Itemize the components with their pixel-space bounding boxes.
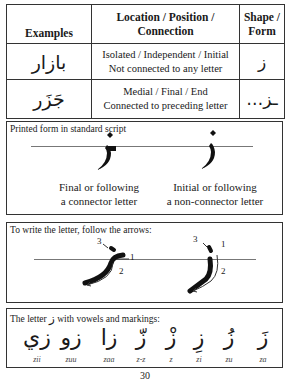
transliteration: zaa — [93, 355, 125, 364]
stroke-label-1: 1 — [221, 239, 226, 249]
transliteration: zu — [213, 355, 245, 364]
printed-form-box: Printed form in standard script Final or… — [6, 121, 283, 215]
example-word: بازار — [7, 44, 92, 80]
box-title: The letter ز with vowels and markings: — [10, 311, 160, 325]
stroke-label-1: 1 — [130, 252, 135, 262]
transliteration: za — [247, 355, 279, 364]
vowel-glyph: زي — [21, 325, 53, 350]
transliteration: z-z — [125, 355, 157, 364]
caption-initial: Initial or following a non-connector let… — [155, 180, 275, 208]
table-row: جَزَر Medial / Final / End Connected to … — [7, 80, 285, 119]
location-cell: Medial / Final / End Connected to preced… — [92, 80, 240, 119]
vowel-glyph: زَ — [247, 325, 279, 350]
header-shape: Shape / Form — [240, 5, 285, 44]
shape-glyph: …ـز — [240, 80, 285, 119]
header-location: Location / Position / Connection — [92, 5, 240, 44]
vowel-glyph: زّ — [125, 325, 157, 350]
example-word: جَزَر — [7, 80, 92, 119]
vowels-box: The letter ز with vowels and markings: ز… — [6, 308, 283, 368]
vowel-glyph: زِ — [183, 325, 215, 350]
stroke-order-box: To write the letter, follow the arrows: … — [6, 222, 283, 303]
location-cell: Isolated / Independent / Initial Not con… — [92, 44, 240, 80]
transliteration: zii — [21, 355, 53, 364]
table-header-row: Examples Location / Position / Connectio… — [7, 5, 285, 44]
letter-zay-isolated-glyph — [193, 128, 233, 172]
table-row: بازار Isolated / Independent / Initial N… — [7, 44, 285, 80]
stroke-label-3: 3 — [193, 234, 198, 244]
box-title: To write the letter, follow the arrows: — [10, 225, 152, 235]
transliteration: zi — [183, 355, 215, 364]
transliteration: zuu — [55, 355, 87, 364]
stroke-diagram-final — [77, 237, 147, 299]
letter-forms-table: Examples Location / Position / Connectio… — [6, 4, 285, 119]
stroke-label-2: 2 — [221, 266, 226, 276]
stroke-label-2: 2 — [119, 266, 124, 276]
vowel-glyph: زا — [93, 325, 125, 350]
letter-zay-final-glyph — [85, 128, 125, 172]
vowel-glyph: زُ — [213, 325, 245, 350]
caption-final: Final or following a connector letter — [39, 180, 159, 208]
stroke-diagram-isolated — [177, 237, 237, 299]
stroke-label-3: 3 — [97, 236, 102, 246]
page-number: 30 — [0, 370, 290, 381]
vowel-glyph: زو — [55, 325, 87, 350]
shape-glyph: ز — [240, 44, 285, 80]
header-examples: Examples — [7, 5, 92, 44]
